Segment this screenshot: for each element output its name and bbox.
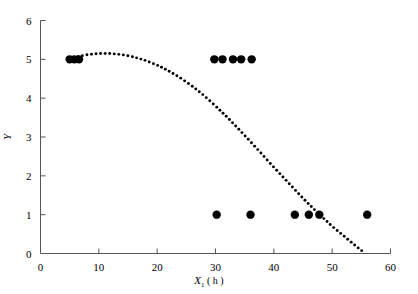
curve-dot <box>131 55 134 58</box>
curve-dot <box>350 241 353 244</box>
y-axis-title: Y <box>1 132 13 140</box>
data-point <box>305 210 313 218</box>
y-axis-ticks <box>41 21 46 215</box>
curve-dot <box>198 90 201 93</box>
curve-dot <box>234 125 237 128</box>
x-tick-label: 0 <box>38 261 44 273</box>
curve-dot <box>244 134 247 137</box>
y-tick-label: 5 <box>26 53 32 65</box>
curve-dot <box>297 192 300 195</box>
y-tick-label: 3 <box>26 131 32 143</box>
curve-dot <box>250 141 253 144</box>
curve-dot <box>175 74 178 77</box>
curve-dot <box>104 52 107 55</box>
curve-dot <box>90 53 93 56</box>
curve-dot <box>285 179 288 182</box>
data-point <box>363 210 371 218</box>
y-tick-label: 0 <box>26 248 32 260</box>
curve-dot <box>148 61 151 64</box>
curve-dot <box>183 79 186 82</box>
curve-dot <box>275 169 278 172</box>
curve-dot <box>218 109 221 112</box>
curve-dot <box>322 217 325 220</box>
data-point <box>246 210 254 218</box>
curve-dot <box>307 202 310 205</box>
x-axis-ticks <box>99 249 391 254</box>
curve-dot <box>266 159 269 162</box>
curve-dot <box>156 64 159 67</box>
x-tick-label: 10 <box>93 261 105 273</box>
curve-dot <box>99 52 102 55</box>
curve-dot <box>329 223 332 226</box>
curve-dot <box>253 145 256 148</box>
curve-dot <box>222 112 225 115</box>
curve-dot <box>357 246 360 249</box>
curve-dot <box>135 56 138 59</box>
curve-dot <box>310 205 313 208</box>
curve-dot <box>326 220 329 223</box>
x-axis-title-unit: ( h ) <box>205 275 224 287</box>
curve-dot <box>256 148 259 151</box>
data-point <box>237 55 245 63</box>
axis-titles: X1 ( h )Y <box>1 132 224 289</box>
curve-dot <box>126 54 129 57</box>
y-tick-label: 1 <box>26 209 32 221</box>
curve-dot <box>272 165 275 168</box>
data-point <box>247 55 255 63</box>
data-point <box>229 55 237 63</box>
curve-dot <box>353 244 356 247</box>
curve-dot <box>339 232 342 235</box>
curve-dot <box>179 77 182 80</box>
curve-dot <box>108 52 111 55</box>
curve-dot <box>259 152 262 155</box>
curve-dot <box>139 58 142 61</box>
curve-dot <box>231 121 234 124</box>
curve-dot <box>241 131 244 134</box>
curve-dot <box>291 186 294 189</box>
x-tick-label: 20 <box>152 261 164 273</box>
curve-dot <box>152 62 155 65</box>
curve-dot <box>360 249 363 252</box>
curve-dot <box>205 96 208 99</box>
curve-dot <box>288 182 291 185</box>
curve-dot <box>278 172 281 175</box>
curve-dot <box>85 53 88 56</box>
curve-dot <box>300 196 303 199</box>
curve-dot <box>332 226 335 229</box>
curve-dot <box>212 102 215 105</box>
curve-dot <box>117 53 120 56</box>
curve-dot <box>269 162 272 165</box>
curve-dot <box>313 208 316 211</box>
curve-dot <box>343 235 346 238</box>
data-point <box>210 55 218 63</box>
curve-dot <box>122 53 125 56</box>
data-point <box>212 210 220 218</box>
curve-dot <box>346 238 349 241</box>
y-tick-label: 4 <box>26 92 32 104</box>
curve-dot <box>95 52 98 55</box>
curve-dot <box>191 85 194 88</box>
curve-dot <box>215 106 218 109</box>
x-tick-label: 60 <box>385 261 397 273</box>
curve-dot <box>237 128 240 131</box>
fitted-curve <box>76 52 363 252</box>
curve-dot <box>113 52 116 55</box>
y-axis-tick-labels: 0123456 <box>26 15 32 260</box>
curve-dot <box>187 82 190 85</box>
curve-dot <box>168 70 171 73</box>
x-axis-title: X1 ( h ) <box>193 274 223 289</box>
x-tick-label: 40 <box>268 261 280 273</box>
curve-dot <box>281 176 284 179</box>
data-point <box>291 210 299 218</box>
curve-dot <box>144 59 147 62</box>
x-tick-label: 30 <box>210 261 222 273</box>
curve-dot <box>164 68 167 71</box>
curve-dot <box>160 66 163 69</box>
curve-dot <box>201 93 204 96</box>
curve-dot <box>304 199 307 202</box>
curve-dot <box>336 229 339 232</box>
y-tick-label: 6 <box>26 15 32 27</box>
curve-dot <box>208 99 211 102</box>
data-points <box>65 55 371 219</box>
scatter-chart: 0123456 0102030405060 X1 ( h )Y <box>0 0 418 294</box>
